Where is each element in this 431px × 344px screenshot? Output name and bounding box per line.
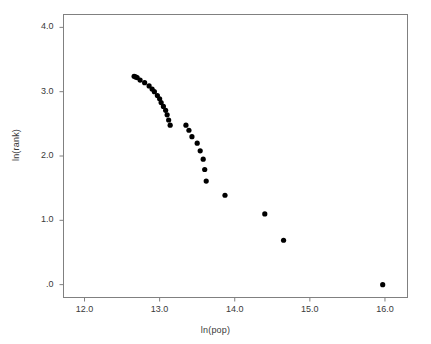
data-point [165,112,170,117]
y-tick-label: 4.0 [24,21,54,31]
y-tick-label: .0 [24,279,54,289]
data-point [380,282,385,287]
scatter-chart-figure: 12.013.014.015.016.0 .01.02.03.04.0 ln(r… [0,0,431,344]
y-axis-ticks [60,27,64,284]
data-point [132,74,137,79]
data-point [195,141,200,146]
data-point [147,83,152,88]
data-point [201,157,206,162]
y-tick-label: 2.0 [24,150,54,160]
plot-canvas [0,0,431,344]
data-point [183,123,188,128]
data-point [202,167,207,172]
plot-frame [64,15,408,298]
y-tick-label: 1.0 [24,214,54,224]
data-point [189,134,194,139]
data-point [198,148,203,153]
data-point [142,80,147,85]
x-tick-label: 13.0 [140,304,180,314]
x-tick-label: 14.0 [215,304,255,314]
x-tick-label: 12.0 [65,304,105,314]
data-point [204,178,209,183]
y-tick-label: 3.0 [24,86,54,96]
data-point [168,123,173,128]
x-axis-title: ln(pop) [0,325,431,335]
data-point [186,128,191,133]
y-axis-title: ln(rank) [11,115,21,175]
x-axis-ticks [85,298,385,302]
data-point [222,193,227,198]
data-point [166,117,171,122]
data-point [281,238,286,243]
x-tick-label: 16.0 [365,304,405,314]
x-tick-label: 15.0 [290,304,330,314]
data-point [262,211,267,216]
